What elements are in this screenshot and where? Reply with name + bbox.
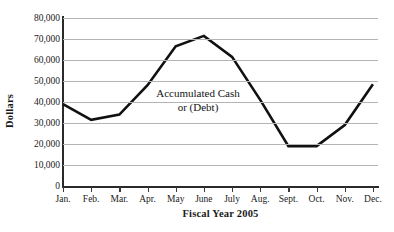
series-annotation: Accumulated Cash or (Debt) [118, 86, 278, 114]
x-axis-tick-label: Oct. [309, 193, 325, 206]
x-axis-tick-label: Mar. [111, 193, 129, 206]
x-axis-line [62, 186, 379, 188]
x-axis-tick-label: May [167, 193, 184, 206]
x-axis-tick [119, 187, 120, 192]
x-axis-tick-label: Jan. [55, 193, 70, 206]
y-axis-tick-label: 60,000 [14, 55, 60, 66]
x-axis-tick [63, 187, 64, 192]
y-axis-tick-labels: 010,00020,00030,00040,00050,00060,00070,… [14, 12, 60, 192]
x-axis-tick [204, 187, 205, 192]
x-axis-tick [232, 187, 233, 192]
y-axis-tick-label: 20,000 [14, 139, 60, 150]
y-axis-tick-label: 50,000 [14, 76, 60, 87]
gridline [63, 60, 378, 61]
x-axis-title: Fiscal Year 2005 [63, 208, 378, 219]
gridline [63, 81, 378, 82]
gridline [63, 165, 378, 166]
x-axis-tick-label: Sept. [279, 193, 298, 206]
y-axis-tick-label: 10,000 [14, 160, 60, 171]
x-axis-tick [373, 187, 374, 192]
y-axis-tick-label: 70,000 [14, 34, 60, 45]
gridline [63, 18, 378, 19]
x-axis-tick-label: Apr. [139, 193, 156, 206]
y-axis-tick-label: 30,000 [14, 118, 60, 129]
x-axis-tick [91, 187, 92, 192]
x-axis-tick-label: Aug. [251, 193, 270, 206]
x-axis-tick-label: June [195, 193, 212, 206]
x-axis-tick [317, 187, 318, 192]
series-annotation-line-2: or (Debt) [118, 100, 278, 114]
x-axis-tick [288, 187, 289, 192]
series-annotation-line-1: Accumulated Cash [118, 86, 278, 100]
x-axis-tick [176, 187, 177, 192]
x-axis-tick [148, 187, 149, 192]
gridline [63, 144, 378, 145]
y-axis-tick-label: 40,000 [14, 97, 60, 108]
x-axis-tick-labels: Jan.Feb.Mar.Apr.MayJuneJulyAug.Sept.Oct.… [63, 193, 378, 207]
x-axis-tick-label: Dec. [364, 193, 382, 206]
x-axis-tick-label: Nov. [336, 193, 354, 206]
gridline [63, 39, 378, 40]
line-chart-figure: Dollars 010,00020,00030,00040,00050,0006… [0, 0, 394, 232]
y-axis-tick-label: 80,000 [14, 13, 60, 24]
x-axis-tick-label: July [224, 193, 240, 206]
x-axis-tick [345, 187, 346, 192]
x-axis-tick-label: Feb. [83, 193, 100, 206]
x-axis-tick [260, 187, 261, 192]
y-axis-tick-label: 0 [14, 181, 60, 192]
gridline [63, 123, 378, 124]
